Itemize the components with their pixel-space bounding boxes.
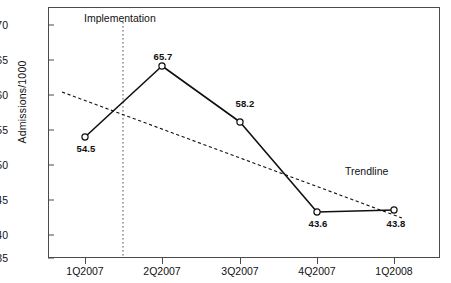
chart-figure: Admissions/1000 70 65 60 55 50 45 40 35 … xyxy=(0,0,451,283)
y-axis-title: Admissions/1000 xyxy=(16,42,28,162)
y-tick-label-55: 55 xyxy=(0,124,8,136)
y-tick-mark-60 xyxy=(48,95,54,96)
data-label-2q2007: 65.7 xyxy=(154,51,173,62)
x-tick-mark-1q2008 xyxy=(394,258,395,264)
data-label-3q2007: 58.2 xyxy=(236,98,255,109)
y-tick-label-35: 35 xyxy=(0,252,8,264)
x-tick-label-1q2008: 1Q2008 xyxy=(354,265,434,277)
y-tick-label-70: 70 xyxy=(0,19,8,31)
x-tick-mark-3q2007 xyxy=(240,258,241,264)
y-tick-label-50: 50 xyxy=(0,159,8,171)
x-tick-label-2q2007: 2Q2007 xyxy=(122,265,202,277)
x-tick-label-3q2007: 3Q2007 xyxy=(200,265,280,277)
x-tick-mark-4q2007 xyxy=(317,258,318,264)
implementation-label: Implementation xyxy=(84,12,156,24)
y-tick-mark-70 xyxy=(48,25,54,26)
x-tick-mark-2q2007 xyxy=(162,258,163,264)
y-tick-label-40: 40 xyxy=(0,229,8,241)
x-tick-mark-1q2007 xyxy=(85,258,86,264)
plot-area xyxy=(48,7,440,258)
x-tick-label-1q2007: 1Q2007 xyxy=(45,265,125,277)
y-tick-mark-50 xyxy=(48,165,54,166)
y-tick-mark-55 xyxy=(48,130,54,131)
y-tick-mark-45 xyxy=(48,200,54,201)
y-tick-mark-65 xyxy=(48,60,54,61)
data-label-1q2008: 43.8 xyxy=(387,218,406,229)
x-tick-label-4q2007: 4Q2007 xyxy=(277,265,357,277)
y-tick-mark-35 xyxy=(48,258,54,259)
y-tick-label-45: 45 xyxy=(0,194,8,206)
y-tick-mark-40 xyxy=(48,235,54,236)
data-label-1q2007: 54.5 xyxy=(77,143,96,154)
y-tick-label-65: 65 xyxy=(0,54,8,66)
data-label-4q2007: 43.6 xyxy=(309,218,328,229)
trendline-label: Trendline xyxy=(345,165,388,177)
y-tick-label-60: 60 xyxy=(0,89,8,101)
